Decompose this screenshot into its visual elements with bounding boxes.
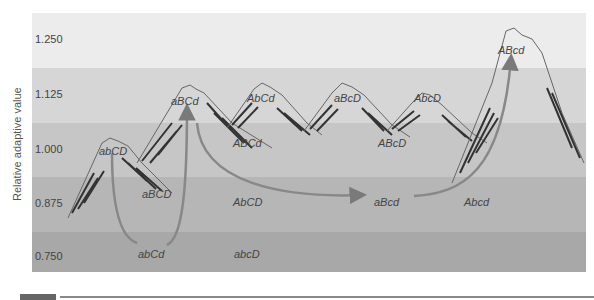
label-ABcD: ABcD xyxy=(377,137,406,149)
label-abCd: abCd xyxy=(138,248,165,260)
label-abcD: abcD xyxy=(234,248,260,260)
label-AbcD: AbcD xyxy=(413,92,441,104)
label-aBcd: aBcd xyxy=(374,196,400,208)
label-AbCD: AbCD xyxy=(232,196,262,208)
landscape-art: abCD aBCd AbCd aBcD AbcD ABcd aBCD ABCd … xyxy=(32,13,586,272)
label-ABcd: ABcd xyxy=(497,44,525,56)
arrow-abCD-to-abCd xyxy=(112,153,137,243)
label-aBcD: aBcD xyxy=(334,92,361,104)
label-AbCd: AbCd xyxy=(246,92,275,104)
mountain-AbCd xyxy=(227,83,322,135)
label-abCD: abCD xyxy=(99,145,127,157)
label-Abcd: Abcd xyxy=(463,196,490,208)
y-axis-label: Relative adaptive value xyxy=(11,91,23,201)
adaptive-landscape: 1.250 1.125 1.000 0.875 0.750 xyxy=(32,13,586,272)
label-aBCd: aBCd xyxy=(171,95,199,107)
evolutionary-path xyxy=(112,58,511,245)
footer-marker xyxy=(20,294,56,300)
footer-rule xyxy=(60,296,594,298)
label-ABCd: ABCd xyxy=(232,137,263,149)
arrow-abCd-to-aBCd xyxy=(167,108,187,245)
arrow-aBcd-to-ABcd xyxy=(414,58,511,196)
arrow-aBCd-to-aBcd xyxy=(197,123,362,195)
label-aBCD: aBCD xyxy=(142,188,171,200)
